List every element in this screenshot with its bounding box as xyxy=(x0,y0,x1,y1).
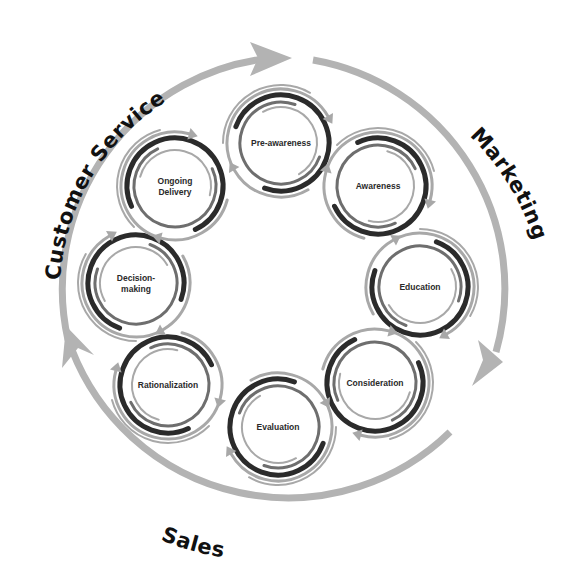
phase-label-customer-service: Customer Service xyxy=(41,85,169,281)
swirl-ring xyxy=(389,269,456,323)
stage-evaluation: Evaluation xyxy=(226,373,336,485)
stage-label-awareness: Awareness xyxy=(356,181,401,191)
stage-label-consideration: Consideration xyxy=(346,378,403,388)
stage-ongoing-delivery: OngoingDelivery xyxy=(117,128,227,244)
stage-label-evaluation: Evaluation xyxy=(257,422,300,432)
stage-label-pre-awareness: Pre-awareness xyxy=(251,138,311,148)
stage-education: Education xyxy=(366,229,478,339)
customer-lifecycle-diagram: Customer Service Marketing Sales Pre-awa… xyxy=(0,0,564,583)
stage-ring: Pre-awarenessAwarenessEducationConsidera… xyxy=(78,85,478,485)
phase-label-sales: Sales xyxy=(159,522,227,562)
stage-decision-making: Decision-making xyxy=(78,231,190,341)
stage-label-ongoing-delivery: OngoingDelivery xyxy=(158,176,193,197)
stage-label-education: Education xyxy=(399,282,440,292)
stage-label-decision-making: Decision-making xyxy=(117,273,155,294)
phase-labels: Customer Service Marketing Sales xyxy=(41,85,552,562)
stage-consideration: Consideration xyxy=(323,325,433,441)
stage-awareness: Awareness xyxy=(320,128,436,238)
stage-pre-awareness: Pre-awareness xyxy=(223,85,333,197)
stage-label-rationalization: Rationalization xyxy=(138,380,198,390)
stage-rationalization: Rationalization xyxy=(110,333,226,443)
